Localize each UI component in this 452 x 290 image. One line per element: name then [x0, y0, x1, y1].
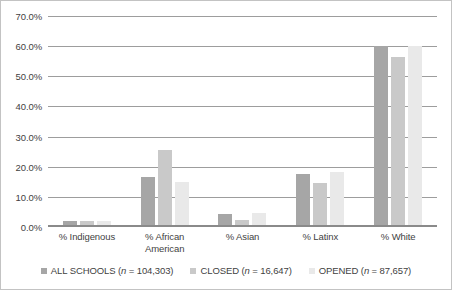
bar[interactable]: [158, 150, 172, 226]
gridline: 0.0%: [48, 227, 437, 228]
bar[interactable]: [218, 214, 232, 226]
x-axis-category-label: % AfricanAmerican: [126, 231, 204, 254]
x-axis-baseline: [48, 225, 437, 227]
legend-swatch: [309, 268, 315, 274]
y-axis-tick-label: 30.0%: [16, 131, 42, 142]
bar[interactable]: [296, 174, 310, 227]
bar[interactable]: [391, 57, 405, 227]
bar-group: [204, 16, 282, 226]
plot-area: 70.0%60.0%50.0%40.0%30.0%20.0%10.0%0.0%: [48, 16, 437, 227]
legend-swatch: [41, 268, 47, 274]
legend-label: ALL SCHOOLS (n = 104,303): [51, 265, 174, 276]
bar-group: [48, 16, 126, 226]
y-axis-tick-label: 70.0%: [16, 11, 42, 22]
legend-label: OPENED (n = 87,657): [319, 265, 411, 276]
x-axis-category-label: % White: [359, 231, 437, 254]
bar[interactable]: [330, 172, 344, 226]
bar[interactable]: [374, 46, 388, 226]
bar-group: [359, 16, 437, 226]
y-axis-tick-label: 40.0%: [16, 101, 42, 112]
legend-item[interactable]: ALL SCHOOLS (n = 104,303): [41, 265, 174, 276]
legend-item[interactable]: OPENED (n = 87,657): [309, 265, 411, 276]
x-axis-category-label: % Indigenous: [48, 231, 126, 254]
legend-label: CLOSED (n = 16,647): [200, 265, 291, 276]
bar[interactable]: [141, 177, 155, 226]
y-axis-tick-label: 20.0%: [16, 161, 42, 172]
chart-figure: 70.0%60.0%50.0%40.0%30.0%20.0%10.0%0.0% …: [0, 0, 452, 290]
bar-groups: [48, 16, 437, 226]
legend-item[interactable]: CLOSED (n = 16,647): [190, 265, 291, 276]
bar-group: [126, 16, 204, 226]
x-axis-category-label: % Latinx: [281, 231, 359, 254]
bar[interactable]: [313, 183, 327, 227]
bar-group: [281, 16, 359, 226]
x-axis-category-label: % Asian: [204, 231, 282, 254]
chart-legend: ALL SCHOOLS (n = 104,303)CLOSED (n = 16,…: [1, 265, 451, 276]
legend-swatch: [190, 268, 196, 274]
bar[interactable]: [408, 46, 422, 226]
x-axis-labels: % Indigenous% AfricanAmerican% Asian% La…: [48, 231, 437, 254]
y-axis-tick-label: 50.0%: [16, 71, 42, 82]
bar[interactable]: [252, 213, 266, 226]
y-axis-tick-label: 60.0%: [16, 41, 42, 52]
y-axis-tick-label: 0.0%: [21, 222, 42, 233]
y-axis-tick-label: 10.0%: [16, 191, 42, 202]
bar[interactable]: [175, 182, 189, 226]
